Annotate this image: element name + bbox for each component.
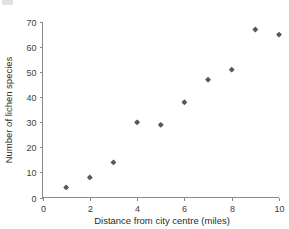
x-axis-title: Distance from city centre (miles) bbox=[94, 215, 230, 226]
data-point bbox=[134, 119, 140, 125]
data-point-core bbox=[230, 68, 233, 71]
data-point-core bbox=[206, 78, 209, 81]
data-point bbox=[205, 77, 211, 83]
data-point-series bbox=[63, 27, 282, 191]
data-point-core bbox=[88, 176, 91, 179]
data-point-core bbox=[277, 33, 280, 36]
x-tick-label: 6 bbox=[182, 204, 187, 214]
x-axis-ticks: 0246810 bbox=[41, 198, 285, 214]
data-point bbox=[87, 175, 93, 181]
y-axis: 010203040506070 bbox=[26, 18, 42, 204]
data-point bbox=[229, 67, 235, 73]
data-point-core bbox=[65, 186, 68, 189]
x-tick-label: 2 bbox=[88, 204, 93, 214]
data-point bbox=[252, 27, 258, 33]
data-point bbox=[63, 185, 69, 191]
x-tick-label: 8 bbox=[230, 204, 235, 214]
y-tick-label: 60 bbox=[26, 43, 36, 53]
scatter-chart: 010203040506070 0246810 Distance from ci… bbox=[0, 0, 289, 229]
chart-canvas: 010203040506070 0246810 Distance from ci… bbox=[0, 0, 289, 229]
y-axis-ticks: 010203040506070 bbox=[26, 18, 42, 204]
y-axis-title: Number of lichen species bbox=[3, 56, 14, 163]
y-tick-label: 30 bbox=[26, 118, 36, 128]
data-point bbox=[158, 122, 164, 128]
y-tick-label: 40 bbox=[26, 93, 36, 103]
y-tick-label: 0 bbox=[31, 194, 36, 204]
data-point-core bbox=[254, 28, 257, 31]
data-point-core bbox=[136, 121, 139, 124]
x-axis: 0246810 bbox=[41, 198, 285, 214]
data-point bbox=[182, 99, 188, 105]
data-point-core bbox=[159, 123, 162, 126]
y-tick-label: 50 bbox=[26, 68, 36, 78]
y-tick-label: 10 bbox=[26, 168, 36, 178]
x-tick-label: 0 bbox=[41, 204, 46, 214]
data-point bbox=[111, 160, 117, 166]
data-point-core bbox=[112, 161, 115, 164]
data-point-core bbox=[183, 101, 186, 104]
data-point bbox=[276, 32, 282, 38]
y-tick-label: 20 bbox=[26, 143, 36, 153]
x-tick-label: 4 bbox=[135, 204, 140, 214]
x-tick-label: 10 bbox=[274, 204, 284, 214]
y-tick-label: 70 bbox=[26, 18, 36, 28]
